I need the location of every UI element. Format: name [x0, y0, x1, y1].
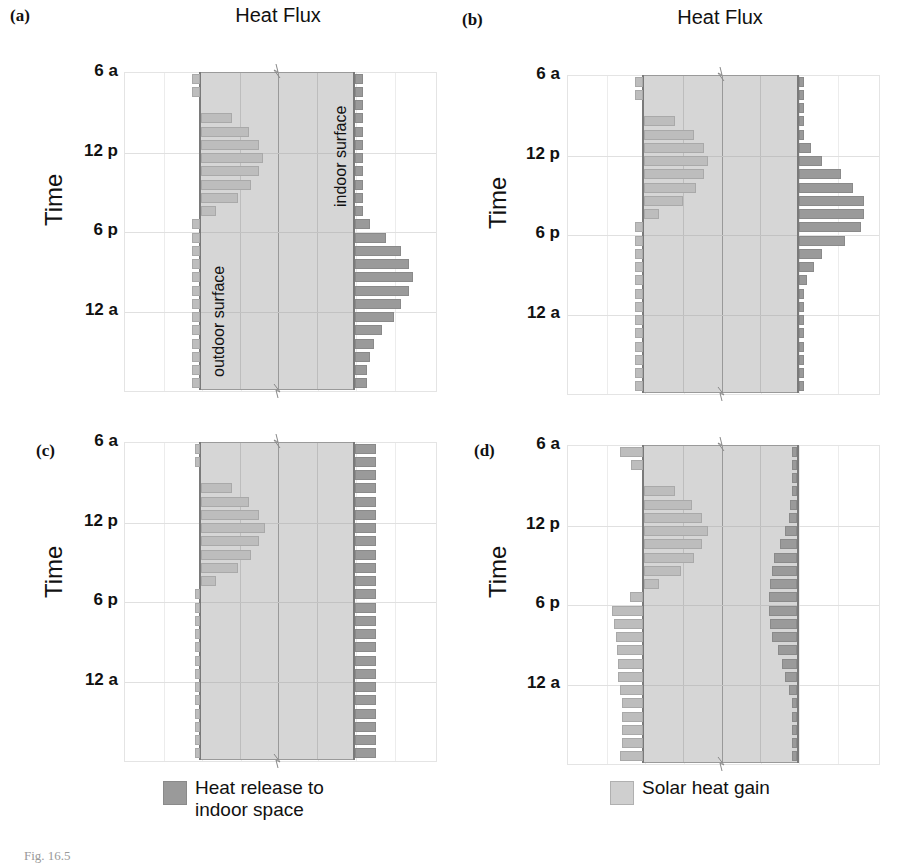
bar-heat-release-indoor: [355, 523, 376, 533]
bar-solar-heat-gain: [195, 629, 200, 639]
bar-heat-release-indoor: [355, 550, 376, 560]
bar-solar-heat-gain: [195, 616, 200, 626]
wall-break-icon: [272, 754, 282, 768]
bar-heat-release-indoor: [355, 272, 413, 282]
bar-heat-release-indoor: [799, 381, 804, 391]
bar-heat-release-indoor: [355, 669, 376, 679]
bar-solar-heat-gain: [644, 539, 702, 549]
wall-grid-line: [760, 446, 761, 762]
bar-heat-release-indoor: [355, 74, 363, 84]
y-axis-label: Time: [40, 174, 68, 226]
bar-heat-release-indoor: [799, 209, 864, 219]
y-tick-label: 12 p: [500, 144, 560, 164]
bar-solar-heat-gain: [620, 447, 643, 457]
bar-heat-release-indoor: [355, 193, 363, 203]
bar-solar-heat-gain: [635, 328, 643, 338]
bar-solar-heat-gain: [192, 299, 200, 309]
bar-heat-release-indoor: [355, 219, 370, 229]
wall-grid-line: [644, 315, 797, 316]
bar-heat-release-indoor: [792, 698, 797, 708]
bar-solar-heat-gain: [635, 342, 643, 352]
panel-title: Heat Flux: [620, 6, 820, 29]
bar-heat-release-indoor: [792, 460, 797, 470]
bar-heat-release-indoor: [355, 722, 376, 732]
wall-grid-line: [317, 443, 318, 759]
wall-break-icon: [716, 437, 726, 451]
y-tick-label: 12 a: [58, 670, 118, 690]
wall-grid-line: [201, 682, 353, 683]
bar-solar-heat-gain: [644, 579, 659, 589]
bar-heat-release-indoor: [799, 103, 804, 113]
y-tick-label: 6 a: [58, 61, 118, 81]
bar-heat-release-indoor: [355, 576, 376, 586]
bar-solar-heat-gain: [201, 550, 251, 560]
bar-solar-heat-gain: [635, 222, 643, 232]
panel-title: Heat Flux: [178, 4, 378, 27]
bar-solar-heat-gain: [622, 698, 643, 708]
bar-heat-release-indoor: [355, 616, 376, 626]
bar-solar-heat-gain: [192, 339, 200, 349]
bar-heat-release-indoor: [799, 315, 804, 325]
bar-heat-release-indoor: [355, 180, 363, 190]
bar-heat-release-indoor: [799, 302, 804, 312]
wall-grid-line: [240, 443, 241, 759]
bar-heat-release-indoor: [355, 365, 367, 375]
wall-grid-line: [201, 602, 353, 603]
legend-label-solar: Solar heat gain: [642, 777, 842, 799]
bar-solar-heat-gain: [644, 183, 696, 193]
bar-solar-heat-gain: [201, 193, 238, 203]
wall-midline: [278, 73, 279, 389]
bar-heat-release-indoor: [355, 563, 376, 573]
bar-solar-heat-gain: [195, 642, 200, 652]
bar-heat-release-indoor: [355, 444, 376, 454]
bar-heat-release-indoor: [355, 748, 376, 758]
bar-solar-heat-gain: [201, 510, 259, 520]
panel-letter: (d): [474, 441, 495, 461]
bar-heat-release-indoor: [355, 286, 409, 296]
bar-solar-heat-gain: [195, 669, 200, 679]
bar-solar-heat-gain: [622, 725, 643, 735]
bar-solar-heat-gain: [644, 143, 704, 153]
bar-solar-heat-gain: [644, 566, 681, 576]
wall-break-icon: [716, 757, 726, 771]
bar-heat-release-indoor: [772, 566, 797, 576]
bar-solar-heat-gain: [201, 523, 265, 533]
bar-heat-release-indoor: [785, 672, 797, 682]
wall-grid-line: [644, 235, 797, 236]
bar-solar-heat-gain: [612, 606, 643, 616]
bar-solar-heat-gain: [635, 368, 643, 378]
bar-heat-release-indoor: [799, 236, 845, 246]
bar-solar-heat-gain: [201, 113, 232, 123]
bar-heat-release-indoor: [355, 510, 376, 520]
bar-heat-release-indoor: [355, 153, 363, 163]
bar-heat-release-indoor: [355, 100, 363, 110]
bar-heat-release-indoor: [780, 539, 797, 549]
bar-heat-release-indoor: [799, 90, 804, 100]
bar-heat-release-indoor: [355, 483, 376, 493]
bar-heat-release-indoor: [799, 368, 804, 378]
bar-heat-release-indoor: [790, 500, 797, 510]
bar-solar-heat-gain: [201, 140, 259, 150]
figure-caption: Fig. 16.5: [24, 848, 71, 864]
bar-heat-release-indoor: [799, 77, 804, 87]
y-tick-label: 12 p: [500, 514, 560, 534]
bar-solar-heat-gain: [201, 576, 216, 586]
bar-solar-heat-gain: [195, 457, 200, 467]
bar-heat-release-indoor: [799, 355, 804, 365]
bar-heat-release-indoor: [355, 656, 376, 666]
bar-heat-release-indoor: [355, 497, 376, 507]
bar-heat-release-indoor: [774, 553, 797, 563]
bar-solar-heat-gain: [192, 246, 200, 256]
bar-heat-release-indoor: [355, 629, 376, 639]
bar-solar-heat-gain: [201, 206, 216, 216]
wall-grid-line: [683, 446, 684, 762]
bar-heat-release-indoor: [799, 169, 841, 179]
bar-solar-heat-gain: [644, 169, 704, 179]
bar-heat-release-indoor: [355, 259, 409, 269]
wall-midline: [278, 443, 279, 759]
bar-solar-heat-gain: [635, 315, 643, 325]
bar-solar-heat-gain: [620, 685, 643, 695]
bar-heat-release-indoor: [769, 592, 797, 602]
bar-heat-release-indoor: [355, 682, 376, 692]
bar-heat-release-indoor: [355, 536, 376, 546]
